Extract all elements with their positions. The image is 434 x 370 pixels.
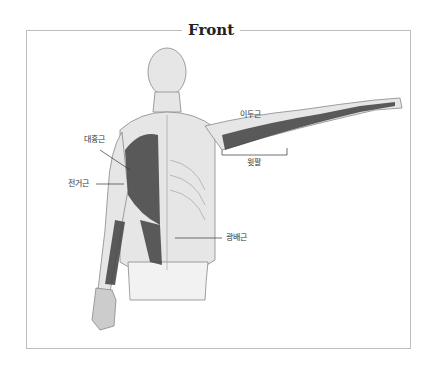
head [148,48,186,96]
label-biceps: 이두근 [240,110,261,120]
label-upper-arm: 윗팔 [247,158,261,168]
label-serratus: 전거근 [68,179,89,189]
anatomy-illustration [0,0,434,370]
label-pectoralis: 대흉근 [84,135,105,145]
label-latissimus: 광배근 [226,233,247,243]
